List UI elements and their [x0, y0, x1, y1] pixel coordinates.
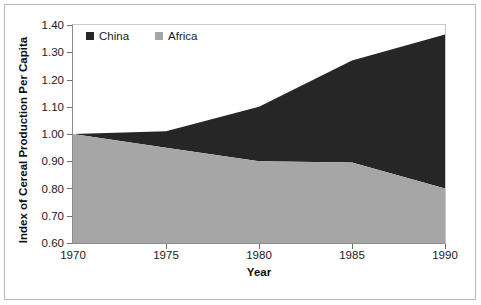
y-axis-title: Index of Cereal Production Per Capita [17, 25, 29, 255]
legend-entry-china[interactable]: China [86, 30, 129, 42]
x-tick-label: 1980 [246, 249, 272, 261]
stacked-area-svg [73, 25, 445, 243]
legend-label: China [99, 30, 129, 42]
x-tick-mark [166, 244, 167, 249]
legend-entry-africa[interactable]: Africa [155, 30, 197, 42]
legend-label: Africa [168, 30, 197, 42]
chart-figure: 0.600.700.800.901.001.101.201.301.40 197… [0, 0, 481, 305]
x-tick-label: 1990 [432, 249, 458, 261]
x-tick-label: 1970 [60, 249, 86, 261]
square-swatch-icon [155, 32, 163, 40]
x-tick-label: 1975 [153, 249, 179, 261]
plot-area [72, 24, 446, 244]
x-tick-mark [352, 244, 353, 249]
x-axis-title: Year [72, 266, 446, 278]
square-swatch-icon [86, 32, 94, 40]
x-tick-mark [445, 244, 446, 249]
chart-legend: ChinaAfrica [86, 30, 197, 42]
x-tick-mark [259, 244, 260, 249]
x-tick-label: 1985 [339, 249, 365, 261]
